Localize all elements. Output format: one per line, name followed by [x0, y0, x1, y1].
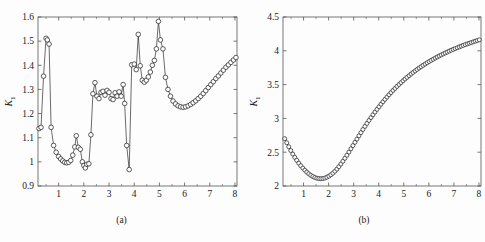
data-point-marker	[134, 67, 139, 72]
data-point-marker	[146, 75, 151, 80]
data-point-marker	[150, 63, 155, 68]
chart-panel-b: 1234567822.533.544.5τK1 (b)	[243, 0, 485, 242]
y-tick-label: 2.5	[267, 148, 279, 158]
x-tick-label: 6	[182, 189, 187, 199]
data-point-marker	[234, 55, 239, 60]
panel-caption-b: (b)	[243, 215, 485, 225]
chart-panel-a: 123456780.911.11.21.31.41.51.6τK1 (a)	[0, 0, 243, 242]
x-tick-label: 3	[107, 189, 112, 199]
svg-text:K1: K1	[3, 96, 17, 108]
plot-area-b: 1234567822.533.544.5τK1	[243, 0, 485, 200]
data-point-marker	[156, 19, 161, 24]
x-tick-label: 7	[452, 189, 457, 199]
data-point-marker	[163, 75, 168, 80]
y-axis-label: K1	[248, 96, 262, 108]
data-point-marker	[127, 167, 132, 172]
y-tick-label: 3	[274, 114, 279, 124]
x-tick-label: 7	[207, 189, 212, 199]
data-point-marker	[283, 137, 287, 141]
y-tick-label: 2	[274, 181, 279, 191]
y-tick-label: 4	[274, 46, 279, 56]
x-tick-label: 2	[326, 189, 331, 199]
y-tick-label: 1.4	[22, 61, 34, 71]
data-point-marker	[97, 96, 102, 101]
y-tick-label: 1.5	[22, 36, 34, 46]
data-point-marker	[89, 133, 94, 138]
data-point-marker	[41, 74, 46, 79]
y-axis-label: K1	[3, 96, 17, 108]
x-tick-label: 1	[301, 189, 306, 199]
data-point-marker	[158, 38, 163, 43]
data-point-marker	[132, 62, 137, 67]
data-point-marker	[166, 87, 171, 92]
data-point-marker	[152, 58, 157, 63]
x-tick-label: 6	[426, 189, 431, 199]
data-point-marker	[168, 94, 173, 99]
y-tick-label: 1.3	[22, 85, 34, 95]
x-tick-label: 8	[233, 189, 238, 199]
data-point-marker	[54, 150, 59, 155]
data-point-marker	[119, 94, 124, 99]
data-point-marker	[74, 133, 79, 138]
data-point-marker	[47, 42, 52, 47]
data-point-marker	[49, 125, 54, 130]
y-tick-label: 1.6	[22, 12, 34, 22]
panel-caption-a: (a)	[0, 215, 243, 225]
plot-area-a: 123456780.911.11.21.31.41.51.6τK1	[0, 0, 243, 200]
data-point-marker	[39, 125, 44, 130]
data-point-marker	[111, 97, 116, 102]
data-point-marker	[103, 93, 108, 98]
data-point-marker	[93, 80, 98, 85]
x-tick-label: 2	[81, 189, 86, 199]
svg-text:K1: K1	[248, 96, 262, 108]
figure-canvas: 123456780.911.11.21.31.41.51.6τK1 (a) 12…	[0, 0, 485, 242]
data-point-marker	[70, 153, 75, 158]
data-point-marker	[161, 47, 166, 52]
x-tick-label: 5	[157, 189, 162, 199]
data-line	[39, 21, 236, 169]
data-point-marker	[121, 82, 126, 87]
y-tick-label: 4.5	[267, 12, 279, 22]
data-point-marker	[136, 32, 141, 37]
data-point-marker	[148, 70, 153, 75]
data-point-marker	[87, 161, 92, 166]
x-tick-label: 4	[132, 189, 137, 199]
data-point-marker	[477, 38, 481, 42]
x-tick-label: 8	[477, 189, 482, 199]
y-tick-label: 3.5	[267, 80, 279, 90]
y-tick-label: 1.2	[22, 109, 34, 119]
data-point-marker	[68, 158, 73, 163]
data-point-marker	[117, 90, 122, 95]
y-tick-label: 1.1	[22, 133, 34, 143]
x-tick-label: 4	[376, 189, 381, 199]
data-point-marker	[285, 141, 289, 145]
data-point-marker	[78, 147, 83, 152]
x-tick-label: 5	[401, 189, 406, 199]
data-point-marker	[51, 143, 56, 148]
data-point-marker	[124, 143, 129, 148]
data-point-marker	[107, 90, 112, 95]
x-tick-label: 1	[56, 189, 61, 199]
data-point-marker	[138, 63, 143, 68]
y-tick-label: 0.9	[22, 181, 34, 191]
data-point-marker	[287, 145, 291, 149]
data-line	[285, 40, 480, 179]
x-tick-label: 3	[351, 189, 356, 199]
data-point-marker	[122, 101, 127, 106]
data-point-marker	[154, 47, 159, 52]
y-tick-label: 1	[29, 157, 34, 167]
